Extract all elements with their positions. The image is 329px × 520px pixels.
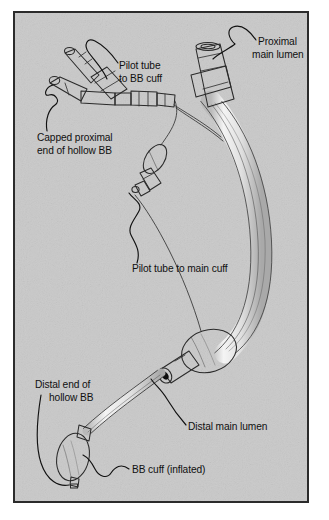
label-line-2: to BB cuff — [119, 73, 162, 84]
label-capped-proximal-end-of-hollow-bb: Capped proximal end of hollow BB — [37, 132, 115, 156]
label-proximal-main-lumen: Proximal main lumen — [252, 36, 304, 60]
device-illustration: Pilot tube to BB cuff Proximal main lume… — [15, 13, 307, 501]
label-line-1: Capped proximal — [37, 132, 113, 143]
label-line-2: hollow BB — [49, 392, 94, 403]
label-line-2: end of hollow BB — [37, 145, 112, 156]
label-line-1: Pilot tube — [119, 60, 161, 71]
label-line-1: Pilot tube to main cuff — [132, 263, 228, 274]
label-bb-cuff-inflated: BB cuff (inflated) — [132, 464, 205, 475]
label-line-1: BB cuff (inflated) — [132, 464, 205, 475]
label-line-2: main lumen — [252, 49, 304, 60]
figure-frame: Pilot tube to BB cuff Proximal main lume… — [13, 11, 309, 503]
figure-root: Pilot tube to BB cuff Proximal main lume… — [0, 0, 329, 520]
label-pilot-tube-to-bb-cuff: Pilot tube to BB cuff — [119, 60, 163, 84]
label-line-1: Distal end of — [35, 379, 91, 390]
label-distal-main-lumen: Distal main lumen — [188, 421, 267, 432]
label-pilot-tube-to-main-cuff: Pilot tube to main cuff — [132, 263, 228, 274]
label-line-1: Proximal — [258, 36, 297, 47]
label-line-1: Distal main lumen — [188, 421, 267, 432]
